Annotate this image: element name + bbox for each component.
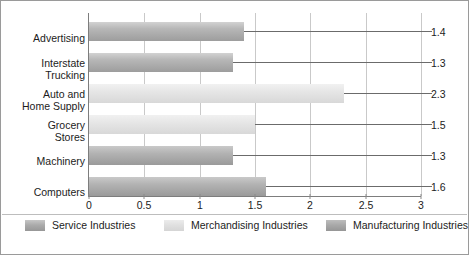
plot-area: [89, 13, 421, 196]
bar-interstate-trucking[interactable]: [89, 53, 233, 72]
bar-grocery-stores[interactable]: [89, 115, 255, 134]
chart-container: Advertising Interstate Trucking Auto and…: [0, 0, 469, 255]
value-leader-line: [266, 186, 432, 187]
value-label: 1.6: [431, 181, 465, 193]
category-label: Grocery Stores: [1, 120, 85, 143]
bar-row: [89, 22, 421, 41]
legend-label: Merchandising Industries: [191, 219, 308, 231]
value-label: 1.4: [431, 26, 465, 38]
x-tick-label: 2.5: [359, 199, 374, 211]
bar-computers[interactable]: [89, 177, 266, 196]
category-label: Machinery: [1, 156, 85, 168]
legend-item-service-industries[interactable]: Service Industries: [25, 219, 135, 231]
bar-row: [89, 84, 421, 103]
legend-swatch-icon: [164, 220, 184, 231]
value-leader-line: [233, 155, 432, 156]
chart-legend: Service Industries Merchandising Industr…: [1, 219, 470, 241]
legend-item-manufacturing-industries[interactable]: Manufacturing Industries: [326, 219, 468, 231]
value-label: 2.3: [431, 88, 465, 100]
bar-row: [89, 115, 421, 134]
legend-swatch-icon: [326, 220, 346, 231]
legend-label: Manufacturing Industries: [353, 219, 468, 231]
legend-swatch-icon: [25, 220, 45, 231]
bar-advertising[interactable]: [89, 22, 244, 41]
legend-item-merchandising-industries[interactable]: Merchandising Industries: [164, 219, 308, 231]
legend-divider: [2, 214, 467, 215]
value-label: 1.5: [431, 119, 465, 131]
category-label: Advertising: [1, 33, 85, 45]
x-tick-label: 2: [307, 199, 313, 211]
value-label: 1.3: [431, 57, 465, 69]
category-axis-labels: Advertising Interstate Trucking Auto and…: [1, 13, 85, 196]
x-tick-label: 0: [86, 199, 92, 211]
bar-row: [89, 146, 421, 165]
bar-row: [89, 53, 421, 72]
legend-label: Service Industries: [52, 219, 135, 231]
value-leader-line: [255, 124, 432, 125]
value-leader-line: [244, 31, 432, 32]
x-tick-label: 1: [197, 199, 203, 211]
category-label: Computers: [1, 187, 85, 199]
category-label: Interstate Trucking: [1, 58, 85, 81]
x-axis-tick-labels: 0 0.5 1 1.5 2 2.5 3: [89, 199, 421, 213]
x-tick-label: 0.5: [137, 199, 152, 211]
x-tick-label: 3: [418, 199, 424, 211]
bar-machinery[interactable]: [89, 146, 233, 165]
bar-auto-and-home-supply[interactable]: [89, 84, 344, 103]
value-label: 1.3: [431, 150, 465, 162]
gridline: [421, 13, 422, 196]
value-leader-line: [233, 62, 432, 63]
value-leader-line: [344, 93, 432, 94]
x-tick-label: 1.5: [248, 199, 263, 211]
value-labels: 1.4 1.3 2.3 1.5 1.3 1.6: [431, 13, 469, 196]
category-label: Auto and Home Supply: [1, 89, 85, 112]
